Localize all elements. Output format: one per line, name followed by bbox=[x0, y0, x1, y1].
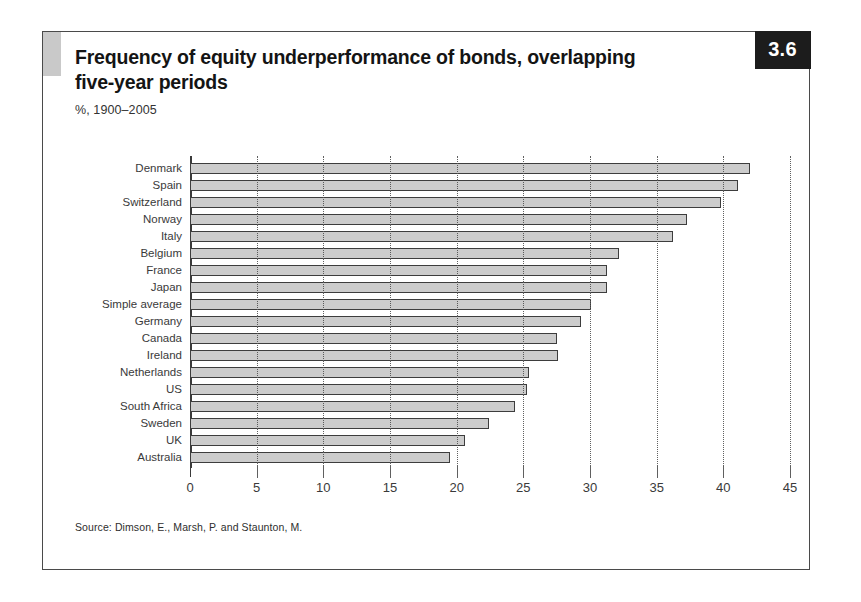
bar bbox=[190, 299, 591, 310]
bar bbox=[190, 401, 515, 412]
bar-gridline-tick bbox=[523, 299, 526, 310]
bar-gridline-tick bbox=[590, 197, 593, 208]
x-axis-ticks bbox=[190, 466, 790, 478]
bar-gridline-tick bbox=[257, 384, 260, 395]
bar-gridline-tick bbox=[390, 316, 393, 327]
bar-gridline-tick bbox=[457, 282, 460, 293]
bar-gridline-tick bbox=[523, 231, 526, 242]
x-axis-tick-label: 10 bbox=[316, 480, 330, 495]
bar-gridline-tick bbox=[390, 418, 393, 429]
y-axis-label: Japan bbox=[43, 279, 189, 296]
bar-gridline-tick bbox=[657, 180, 660, 191]
x-axis-tick-label: 25 bbox=[516, 480, 530, 495]
bar bbox=[190, 214, 687, 225]
bar-gridline-tick bbox=[257, 418, 260, 429]
bar-gridline-tick bbox=[457, 418, 460, 429]
bar-gridline-tick bbox=[523, 214, 526, 225]
bar-gridline-tick bbox=[257, 231, 260, 242]
bar-gridline-tick bbox=[457, 350, 460, 361]
y-axis-label: France bbox=[43, 262, 189, 279]
y-axis-label: Germany bbox=[43, 313, 189, 330]
x-axis-tick bbox=[723, 466, 724, 477]
bar-row bbox=[190, 262, 790, 279]
bar-gridline-tick bbox=[590, 163, 593, 174]
bar-gridline-tick bbox=[390, 265, 393, 276]
bar-series bbox=[190, 160, 790, 466]
bar-gridline-tick bbox=[523, 384, 526, 395]
bar-row bbox=[190, 381, 790, 398]
y-axis-label: Italy bbox=[43, 228, 189, 245]
bar-gridline-tick bbox=[390, 299, 393, 310]
x-axis-tick-label: 40 bbox=[716, 480, 730, 495]
bar-gridline-tick bbox=[590, 282, 593, 293]
bar-gridline-tick bbox=[390, 197, 393, 208]
bar-row bbox=[190, 228, 790, 245]
bar-gridline-tick bbox=[657, 214, 660, 225]
bar-row bbox=[190, 449, 790, 466]
bar-gridline-tick bbox=[523, 316, 526, 327]
bar-gridline-tick bbox=[323, 435, 326, 446]
bar-gridline-tick bbox=[523, 180, 526, 191]
bar-gridline-tick bbox=[723, 163, 726, 174]
bar-gridline-tick bbox=[523, 350, 526, 361]
y-axis-labels: DenmarkSpainSwitzerlandNorwayItalyBelgiu… bbox=[43, 160, 189, 466]
bar bbox=[190, 282, 607, 293]
bar-gridline-tick bbox=[390, 231, 393, 242]
bar-gridline-tick bbox=[390, 435, 393, 446]
bar-gridline-tick bbox=[457, 180, 460, 191]
source-divider bbox=[43, 514, 811, 515]
bar-gridline-tick bbox=[457, 265, 460, 276]
bar-gridline-tick bbox=[323, 231, 326, 242]
y-axis-label: Sweden bbox=[43, 415, 189, 432]
bar-gridline-tick bbox=[390, 282, 393, 293]
bar-gridline-tick bbox=[323, 180, 326, 191]
bar bbox=[190, 384, 527, 395]
x-axis-tick-label: 30 bbox=[583, 480, 597, 495]
x-axis-labels: 051015202530354045 bbox=[190, 480, 790, 500]
bar-gridline-tick bbox=[257, 350, 260, 361]
bar bbox=[190, 248, 619, 259]
bar bbox=[190, 265, 607, 276]
bar-gridline-tick bbox=[257, 316, 260, 327]
bar-gridline-tick bbox=[323, 384, 326, 395]
bar bbox=[190, 350, 558, 361]
figure-container: 3.6 Frequency of equity underperformance… bbox=[42, 31, 810, 570]
bar-row bbox=[190, 330, 790, 347]
bar-row bbox=[190, 279, 790, 296]
bar-gridline-tick bbox=[323, 401, 326, 412]
y-axis-label: US bbox=[43, 381, 189, 398]
bar-gridline-tick bbox=[323, 367, 326, 378]
bar-gridline-tick bbox=[590, 248, 593, 259]
bar bbox=[190, 163, 750, 174]
bar-gridline-tick bbox=[390, 333, 393, 344]
bar-row bbox=[190, 194, 790, 211]
bar-gridline-tick bbox=[390, 180, 393, 191]
bar-gridline-tick bbox=[523, 197, 526, 208]
bar-gridline-tick bbox=[457, 231, 460, 242]
bar-gridline-tick bbox=[257, 214, 260, 225]
gridline bbox=[790, 156, 791, 478]
bar-gridline-tick bbox=[257, 299, 260, 310]
source-note: Source: Dimson, E., Marsh, P. and Staunt… bbox=[75, 521, 302, 533]
y-axis-label: UK bbox=[43, 432, 189, 449]
figure-header: Frequency of equity underperformance of … bbox=[75, 45, 675, 117]
bar-gridline-tick bbox=[257, 333, 260, 344]
bar-gridline-tick bbox=[257, 265, 260, 276]
y-axis-label: Ireland bbox=[43, 347, 189, 364]
bar-gridline-tick bbox=[523, 248, 526, 259]
bar-gridline-tick bbox=[323, 316, 326, 327]
bar-gridline-tick bbox=[257, 401, 260, 412]
x-axis-tick bbox=[323, 466, 324, 477]
bar-gridline-tick bbox=[323, 350, 326, 361]
x-axis-tick bbox=[657, 466, 658, 477]
bar-row bbox=[190, 296, 790, 313]
bar-gridline-tick bbox=[257, 197, 260, 208]
bar-gridline-tick bbox=[257, 452, 260, 463]
y-axis-label: Switzerland bbox=[43, 194, 189, 211]
bar-gridline-tick bbox=[590, 180, 593, 191]
y-axis-label: Simple average bbox=[43, 296, 189, 313]
bar-gridline-tick bbox=[390, 367, 393, 378]
bar-gridline-tick bbox=[457, 214, 460, 225]
y-axis-label: Belgium bbox=[43, 245, 189, 262]
x-axis-tick-label: 0 bbox=[186, 480, 193, 495]
